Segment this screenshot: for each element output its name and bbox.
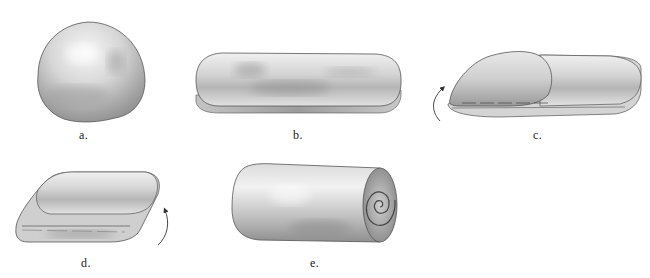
dough-shaping-diagram <box>0 0 650 278</box>
panel-a-ball <box>38 22 145 122</box>
panel-b-flattened-slab <box>196 53 401 113</box>
panel-label-a: a. <box>79 128 88 143</box>
panel-label-d: d. <box>81 256 91 271</box>
panel-label-e: e. <box>310 256 319 271</box>
panel-e-rolled-log <box>232 164 397 242</box>
panel-label-c: c. <box>533 128 542 143</box>
panel-label-b: b. <box>293 128 303 143</box>
panel-d-second-fold <box>16 172 168 245</box>
panel-c-first-fold <box>434 52 642 122</box>
